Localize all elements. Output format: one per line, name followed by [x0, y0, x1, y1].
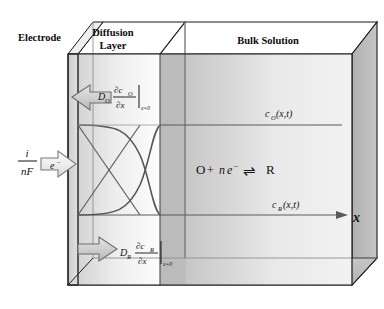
bulk-boundary-shade — [160, 54, 186, 285]
label-co-symbol: c — [265, 108, 270, 119]
reaction-plus: + — [207, 163, 214, 177]
flux-bottom-diffusion-subscript: R — [126, 253, 131, 260]
reaction-electron-e: e — [227, 163, 233, 177]
label-co-arguments: (x,t) — [276, 108, 293, 120]
flux-top-denominator: ∂x — [116, 100, 124, 110]
label-x-axis: x — [352, 210, 360, 225]
reaction-equilibrium-arrow: ⇌ — [243, 163, 256, 179]
flux-bottom-denominator: ∂x — [138, 256, 146, 266]
electron-label: e — [50, 160, 55, 171]
flux-top-diffusion-subscript: O — [105, 97, 110, 104]
label-electrode: Electrode — [18, 32, 61, 43]
label-diffusion-layer-line2: Layer — [100, 40, 127, 51]
flux-top-numerator: ∂c — [114, 85, 122, 95]
reaction-electron-n: n — [219, 163, 225, 177]
label-diffusion-layer-line1: Diffusion — [92, 27, 134, 38]
current-term-numerator: i — [25, 147, 28, 159]
front-face-bulk — [160, 54, 352, 285]
flux-top-numerator-subscript: O — [128, 90, 133, 97]
figure-canvas: Electrode Diffusion Layer Bulk Solution … — [0, 0, 384, 309]
flux-top-evaluated-at: x=0 — [140, 105, 150, 111]
right-side-face — [352, 22, 377, 285]
diffusion-layer-diagram: Electrode Diffusion Layer Bulk Solution … — [0, 0, 384, 309]
reaction-oxidized: O — [196, 162, 205, 177]
flux-bottom-numerator-subscript: R — [149, 246, 154, 253]
flux-bottom-numerator: ∂c — [136, 241, 144, 251]
electron-charge-superscript: – — [56, 158, 61, 166]
reaction-reduced: R — [266, 162, 275, 177]
flux-bottom-evaluated-at: x=0 — [162, 261, 172, 267]
label-cr-arguments: (x,t) — [283, 199, 300, 211]
current-term-denominator: nF — [21, 165, 34, 177]
electrode-slab — [68, 54, 78, 285]
label-cr-symbol: c — [272, 199, 277, 210]
label-bulk-solution: Bulk Solution — [237, 35, 299, 46]
label-cr-subscript: R — [277, 205, 282, 212]
